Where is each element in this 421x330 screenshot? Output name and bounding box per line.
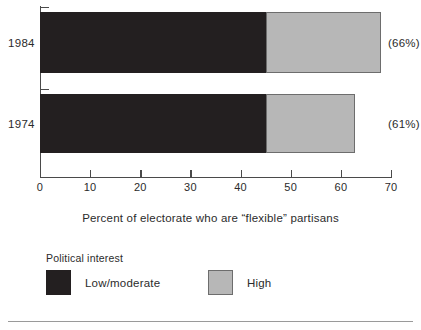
x-axis-tick-label: 0 [37,181,43,193]
x-axis-tick-label: 50 [284,181,297,193]
x-axis-line [40,177,391,178]
legend: Political interest Low/moderate High [46,252,376,296]
x-axis-tick [190,170,191,178]
x-axis-tick [40,170,41,178]
x-axis-tick-label: 60 [335,181,348,193]
legend-item-low-moderate: Low/moderate [46,270,160,295]
category-label-1984: 1984 [8,37,35,49]
legend-item-high: High [208,270,271,295]
x-axis-tick-label: 10 [84,181,97,193]
x-axis-tick-label: 20 [134,181,147,193]
value-label-1974: (61%) [388,118,420,130]
x-axis-tick [391,170,392,178]
legend-label-low-moderate: Low/moderate [85,277,160,289]
plot-area: 0 10 20 30 40 50 60 70 1984 (66%) 1974 (… [0,0,421,205]
x-axis-tick-label: 40 [234,181,247,193]
category-label-1974: 1974 [8,118,35,130]
legend-swatch-high [208,270,233,295]
footer-divider [8,321,413,322]
y-axis-tick [40,89,49,90]
y-axis-tick [40,7,49,8]
stacked-bar-chart: 0 10 20 30 40 50 60 70 1984 (66%) 1974 (… [0,0,421,330]
x-axis-tick-label: 70 [385,181,398,193]
bar-segment-high [266,94,355,153]
x-axis-tick [241,170,242,178]
legend-title: Political interest [46,252,376,264]
bar-segment-low-moderate [40,94,266,153]
legend-swatch-low-moderate [46,270,71,295]
value-label-1984: (66%) [388,37,420,49]
bar-segment-high [266,12,381,73]
legend-row: Low/moderate High [46,270,376,296]
x-axis-tick [90,170,91,178]
bar-1984 [40,12,381,73]
x-axis-tick [341,170,342,178]
x-axis-tick [140,170,141,178]
x-axis-title: Percent of electorate who are “flexible”… [0,212,421,224]
bar-1974 [40,94,355,153]
legend-label-high: High [247,277,271,289]
x-axis-tick-label: 30 [184,181,197,193]
x-axis-tick [291,170,292,178]
bar-segment-low-moderate [40,12,266,73]
